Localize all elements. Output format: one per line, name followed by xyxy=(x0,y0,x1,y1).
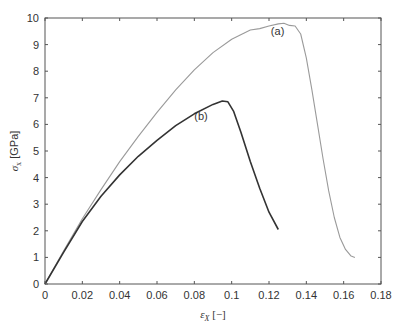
y-tick-label: 7 xyxy=(33,92,39,104)
x-tick-label: 0 xyxy=(42,289,48,301)
annotation-label: (b) xyxy=(194,110,207,122)
annotation-label: (a) xyxy=(271,25,284,37)
x-tick-label: 0.1 xyxy=(224,289,239,301)
y-tick-label: 5 xyxy=(33,145,39,157)
y-tick-label: 1 xyxy=(33,251,39,263)
series-line-a xyxy=(45,23,355,284)
y-tick-label: 0 xyxy=(33,278,39,290)
x-tick-label: 0.16 xyxy=(333,289,354,301)
x-tick-label: 0.02 xyxy=(72,289,93,301)
y-tick-label: 9 xyxy=(33,39,39,51)
y-tick-label: 8 xyxy=(33,65,39,77)
y-axis-label: σx [GPa] xyxy=(8,131,23,172)
axes-frame xyxy=(45,18,381,284)
y-tick-label: 3 xyxy=(33,198,39,210)
x-tick-label: 0.06 xyxy=(146,289,167,301)
x-tick-label: 0.18 xyxy=(370,289,391,301)
series-line-b xyxy=(45,101,278,284)
y-tick-label: 2 xyxy=(33,225,39,237)
x-tick-label: 0.14 xyxy=(296,289,317,301)
y-tick-label: 4 xyxy=(33,172,39,184)
x-tick-label: 0.08 xyxy=(184,289,205,301)
stress-strain-chart: (a)(b) 00.020.040.060.080.10.120.140.160… xyxy=(0,0,401,333)
x-tick-label: 0.04 xyxy=(109,289,130,301)
y-tick-label: 6 xyxy=(33,118,39,130)
plot-area: (a)(b) xyxy=(45,23,355,284)
x-axis-label: εX [−] xyxy=(200,308,226,323)
x-tick-label: 0.12 xyxy=(258,289,279,301)
y-tick-label: 10 xyxy=(27,12,39,24)
